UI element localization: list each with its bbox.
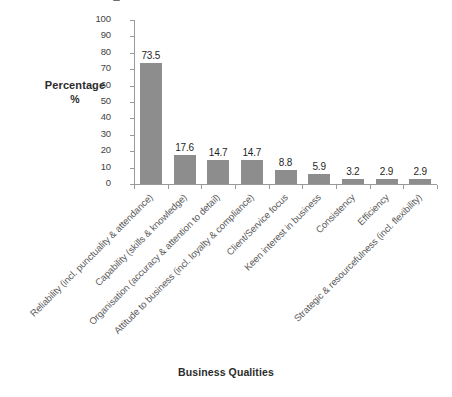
y-axis-tick-label: 60 [101, 79, 111, 90]
x-axis-tick-mark [437, 185, 438, 189]
x-axis-line [134, 184, 437, 185]
y-axis-tick-label: 80 [101, 46, 111, 57]
y-axis-tick-label: 70 [101, 62, 111, 73]
bar [376, 179, 398, 184]
y-axis-tick-label: 30 [101, 128, 111, 139]
x-axis-tick-mark [134, 185, 135, 189]
x-axis-tick-mark [302, 185, 303, 189]
y-axis-tick-label: 50 [101, 95, 111, 106]
bar [207, 160, 229, 184]
y-axis-tick-label: 90 [101, 29, 111, 40]
bar [308, 174, 330, 184]
chart-screenshot: Percentage % 1009080706050403020100 Reli… [0, 0, 452, 397]
x-axis-title: Business Qualities [0, 366, 452, 378]
x-axis-tick-mark [336, 185, 337, 189]
bar [241, 160, 263, 184]
bar [275, 170, 297, 184]
y-axis-tick-label: 10 [101, 161, 111, 172]
y-axis-tick-label: 0 [106, 177, 111, 188]
bar-value-label: 2.9 [398, 166, 442, 177]
bar [409, 179, 431, 184]
bar-value-label: 73.5 [129, 50, 173, 61]
x-axis-tick-mark [235, 185, 236, 189]
clipped-title-artifact [113, 0, 120, 1]
x-axis-tick-mark [403, 185, 404, 189]
y-axis-tick-label: 20 [101, 144, 111, 155]
x-axis-tick-mark [370, 185, 371, 189]
y-axis-title-line1: Percentage [45, 79, 105, 91]
x-axis-tick-mark [201, 185, 202, 189]
x-axis-tick-mark [168, 185, 169, 189]
y-axis-tick-label: 40 [101, 111, 111, 122]
y-axis-tick-label: 100 [95, 13, 111, 24]
bar [342, 179, 364, 184]
bar [140, 63, 162, 184]
x-axis-tick-mark [269, 185, 270, 189]
bar [174, 155, 196, 184]
